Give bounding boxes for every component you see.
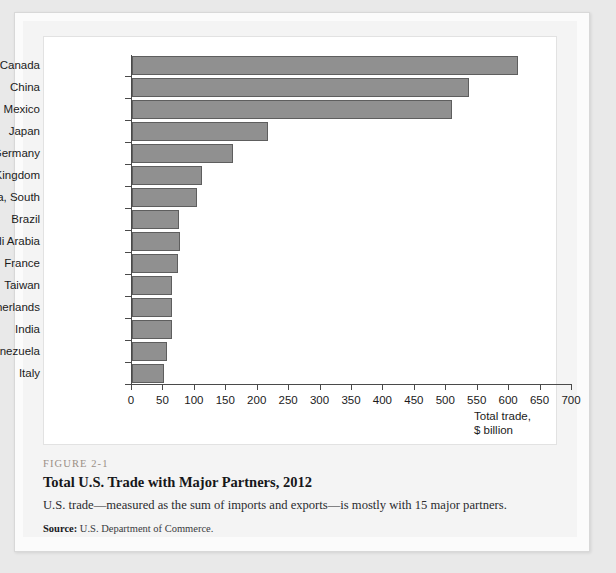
bar-category-label: Mexico: [0, 102, 40, 116]
x-axis-tick: [571, 384, 572, 390]
bar-category-label: Germany: [0, 146, 40, 160]
x-axis-tick: [162, 384, 163, 390]
x-axis-tick: [288, 384, 289, 390]
bar-category-label: India: [0, 322, 40, 336]
bar: [132, 298, 172, 317]
bar-row: Italy: [44, 363, 556, 385]
x-axis-caption: Total trade,$ billion: [474, 410, 570, 437]
figure-source: Source: U.S. Department of Commerce.: [43, 523, 559, 534]
bar-row: Mexico: [44, 99, 556, 121]
figure-description: U.S. trade—measured as the sum of import…: [43, 498, 559, 513]
bar-row: France: [44, 253, 556, 275]
bar-chart: CanadaChinaMexicoJapanGermanyUnited King…: [44, 37, 556, 444]
x-axis-tick: [445, 384, 446, 390]
figure-source-text: U.S. Department of Commerce.: [80, 523, 214, 534]
x-axis-caption-line: Total trade,: [474, 410, 570, 424]
figure-caption-block: FIGURE 2-1 Total U.S. Trade with Major P…: [43, 458, 559, 534]
bar-category-label: Saudi Arabia: [0, 234, 40, 248]
bar: [132, 254, 178, 273]
bar-category-label: Brazil: [0, 212, 40, 226]
x-axis-tick: [194, 384, 195, 390]
x-axis-tick: [257, 384, 258, 390]
x-axis-tick: [131, 384, 132, 390]
figure-title: Total U.S. Trade with Major Partners, 20…: [43, 474, 559, 491]
chart-card: CanadaChinaMexicoJapanGermanyUnited King…: [43, 36, 557, 445]
x-axis-tick: [320, 384, 321, 390]
bar: [132, 276, 172, 295]
x-axis-tick: [351, 384, 352, 390]
bar: [132, 188, 197, 207]
bar-row: Brazil: [44, 209, 556, 231]
figure-source-label: Source:: [43, 523, 77, 534]
bar-category-label: France: [0, 256, 40, 270]
bar: [132, 210, 179, 229]
x-axis-tick: [477, 384, 478, 390]
bar-row: Canada: [44, 55, 556, 77]
x-axis-tick: [225, 384, 226, 390]
bar-row: India: [44, 319, 556, 341]
bar-row: United Kingdom: [44, 165, 556, 187]
bar-row: Venezuela: [44, 341, 556, 363]
bar-category-label: Taiwan: [0, 278, 40, 292]
bar-row: China: [44, 77, 556, 99]
x-axis-tick: [414, 384, 415, 390]
x-axis-tick: [382, 384, 383, 390]
bar: [132, 100, 452, 119]
bar: [132, 320, 172, 339]
bar-row: Japan: [44, 121, 556, 143]
x-axis-caption-line: $ billion: [474, 424, 570, 438]
bar-category-label: Korea, South: [0, 190, 40, 204]
bar-category-label: United Kingdom: [0, 168, 40, 182]
bar-row: Taiwan: [44, 275, 556, 297]
bar: [132, 166, 202, 185]
bar: [132, 78, 469, 97]
bar: [132, 122, 268, 141]
bar-row: Saudi Arabia: [44, 231, 556, 253]
figure-panel: CanadaChinaMexicoJapanGermanyUnited King…: [23, 21, 577, 537]
bar-category-label: Netherlands: [0, 300, 40, 314]
bar-category-label: Canada: [0, 58, 40, 72]
bar-row: Korea, South: [44, 187, 556, 209]
page-sheet: CanadaChinaMexicoJapanGermanyUnited King…: [14, 12, 590, 552]
bar: [132, 56, 518, 75]
bar: [132, 364, 164, 383]
bar-row: Germany: [44, 143, 556, 165]
figure-number: FIGURE 2-1: [43, 458, 559, 469]
bar-category-label: China: [0, 80, 40, 94]
x-axis-tick: [508, 384, 509, 390]
bar-row: Netherlands: [44, 297, 556, 319]
x-axis-tick: [540, 384, 541, 390]
bar-category-label: Japan: [0, 124, 40, 138]
bar-category-label: Venezuela: [0, 344, 40, 358]
bar: [132, 342, 167, 361]
bar-category-label: Italy: [0, 366, 40, 380]
x-axis-tick-label: 700: [551, 393, 591, 407]
bar: [132, 232, 180, 251]
bar: [132, 144, 233, 163]
